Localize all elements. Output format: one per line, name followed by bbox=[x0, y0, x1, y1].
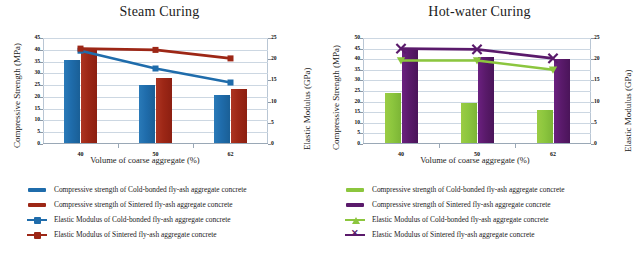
legend-swatch-line-triangle-icon bbox=[344, 214, 366, 225]
legend-label: Elastic Modulus of Cold-bonded fly-ash a… bbox=[372, 216, 549, 223]
legend-swatch-bar-icon bbox=[344, 199, 366, 210]
marker-square bbox=[153, 66, 159, 72]
y2-tick-label: 10 bbox=[594, 99, 600, 105]
x-axis-line-steam bbox=[43, 143, 268, 144]
y2-tick-mark bbox=[268, 38, 271, 39]
y2-tick-label: 25 bbox=[271, 35, 277, 41]
y2-tick-mark bbox=[591, 80, 594, 81]
legend-swatch-line-square-icon bbox=[26, 214, 48, 225]
x-axis-title-steam: Volume of coarse aggregate (%) bbox=[0, 155, 290, 165]
legend-label: Compressive strength of Cold-bonded fly-… bbox=[372, 186, 565, 193]
line-series-hotwater bbox=[363, 38, 591, 144]
chart-panel-steam-curing: Steam Curing Compressive Strength (MPa) … bbox=[0, 0, 319, 265]
chart-title-steam: Steam Curing bbox=[0, 4, 319, 20]
legend-item-em-cold-hotwater[interactable]: Elastic Modulus of Cold-bonded fly-ash a… bbox=[344, 212, 639, 227]
x-tick-label: 62 bbox=[550, 151, 556, 157]
y2-tick-label: 20 bbox=[594, 56, 600, 62]
legend-swatch-bar-icon bbox=[344, 184, 366, 195]
y2-tick-mark bbox=[268, 80, 271, 81]
y2-tick-label: 5 bbox=[271, 120, 274, 126]
legend-swatch-bar-icon bbox=[26, 199, 48, 210]
x-tick-mark bbox=[118, 144, 119, 148]
x-axis-line-hotwater bbox=[363, 143, 591, 144]
marker-square bbox=[228, 80, 234, 86]
y2-tick-mark bbox=[591, 102, 594, 103]
y2-tick-mark bbox=[591, 38, 594, 39]
legend-item-em-cold-steam[interactable]: Elastic Modulus of Cold-bonded fly-ash a… bbox=[26, 212, 318, 227]
y2-tick-mark bbox=[268, 102, 271, 103]
x-tick-mark bbox=[193, 144, 194, 148]
y2-tick-mark bbox=[268, 123, 271, 124]
legend-label: Compressive strength of Cold-bonded fly-… bbox=[54, 186, 247, 193]
legend-label: Elastic Modulus of Sintered fly-ash aggr… bbox=[54, 231, 217, 238]
figure-root: Steam Curing Compressive Strength (MPa) … bbox=[0, 0, 639, 265]
y2-tick-label: 0 bbox=[594, 141, 597, 147]
y2-tick-mark bbox=[591, 144, 594, 145]
y-axis-title-right-hotwater: Elastic Modulus (GPa) bbox=[623, 70, 633, 153]
marker-square bbox=[228, 55, 234, 61]
chart-title-hotwater: Hot-water Curing bbox=[320, 4, 639, 20]
x-tick-label: 62 bbox=[228, 151, 234, 157]
marker-square bbox=[153, 47, 159, 53]
y-tick-mark bbox=[360, 144, 363, 145]
legend-item-cs-cold-steam[interactable]: Compressive strength of Cold-bonded fly-… bbox=[26, 182, 318, 197]
y-axis-title-left-steam: Compressive Strength (MPa) bbox=[12, 43, 22, 148]
y2-tick-label: 10 bbox=[271, 99, 277, 105]
y2-tick-mark bbox=[268, 59, 271, 60]
legend-label: Compressive strength of Sintered fly-ash… bbox=[54, 201, 233, 208]
y-tick-mark bbox=[40, 144, 43, 145]
chart-panel-hot-water-curing: Hot-water Curing Compressive Strength (M… bbox=[320, 0, 639, 265]
y-axis-title-right-steam: Elastic Modulus (GPa) bbox=[302, 68, 312, 151]
y2-tick-label: 25 bbox=[594, 35, 600, 41]
plot-area-steam: 0510152025303540450510152025 405062 bbox=[43, 38, 268, 144]
y-axis-title-left-hotwater: Compressive Strength (MPa) bbox=[331, 45, 341, 150]
legend-label: Compressive strength of Sintered fly-ash… bbox=[372, 201, 551, 208]
y2-tick-label: 0 bbox=[271, 141, 274, 147]
legend-item-cs-sintered-steam[interactable]: Compressive strength of Sintered fly-ash… bbox=[26, 197, 318, 212]
y2-tick-label: 20 bbox=[271, 56, 277, 62]
x-tick-label: 50 bbox=[474, 151, 480, 157]
x-tick-label: 50 bbox=[153, 151, 159, 157]
legend-item-em-sintered-hotwater[interactable]: ✕ Elastic Modulus of Sintered fly-ash ag… bbox=[344, 227, 639, 242]
legend-label: Elastic Modulus of Cold-bonded fly-ash a… bbox=[54, 216, 231, 223]
legend-item-cs-cold-hotwater[interactable]: Compressive strength of Cold-bonded fly-… bbox=[344, 182, 639, 197]
y2-tick-mark bbox=[591, 59, 594, 60]
y2-tick-mark bbox=[268, 144, 271, 145]
legend-label: Elastic Modulus of Sintered fly-ash aggr… bbox=[372, 231, 535, 238]
legend-hotwater: Compressive strength of Cold-bonded fly-… bbox=[344, 182, 639, 242]
marker-square bbox=[78, 46, 84, 52]
x-tick-label: 40 bbox=[78, 151, 84, 157]
legend-swatch-bar-icon bbox=[26, 184, 48, 195]
y2-tick-label: 15 bbox=[594, 77, 600, 83]
legend-swatch-line-square-icon bbox=[26, 229, 48, 240]
legend-item-em-sintered-steam[interactable]: Elastic Modulus of Sintered fly-ash aggr… bbox=[26, 227, 318, 242]
y2-tick-mark bbox=[591, 123, 594, 124]
legend-steam: Compressive strength of Cold-bonded fly-… bbox=[26, 182, 318, 242]
legend-swatch-line-x-icon: ✕ bbox=[344, 229, 366, 240]
x-tick-mark bbox=[515, 144, 516, 148]
plot-area-hotwater: 051015202530354045500510152025 405062 bbox=[363, 38, 591, 144]
x-tick-mark bbox=[439, 144, 440, 148]
x-tick-label: 40 bbox=[398, 151, 404, 157]
y2-tick-label: 5 bbox=[594, 120, 597, 126]
y2-tick-label: 15 bbox=[271, 77, 277, 83]
legend-item-cs-sintered-hotwater[interactable]: Compressive strength of Sintered fly-ash… bbox=[344, 197, 639, 212]
line-series-steam bbox=[43, 38, 268, 144]
